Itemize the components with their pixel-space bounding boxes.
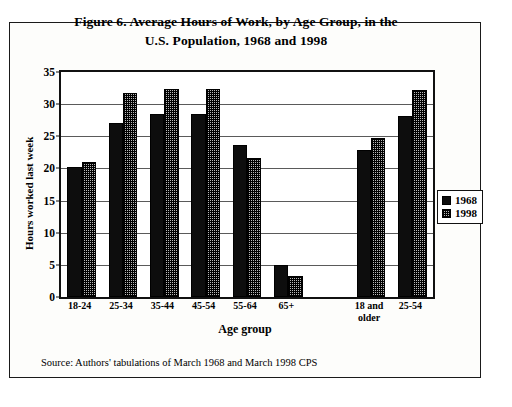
y-tick-label: 15	[44, 195, 56, 207]
bar-1998-18-24	[82, 162, 96, 297]
y-tick-mark	[56, 232, 61, 233]
y-tick-label: 25	[44, 130, 56, 142]
y-tick-mark	[56, 72, 61, 73]
gridline	[61, 104, 433, 105]
legend-item-1998: 1998	[442, 207, 477, 220]
bar-1968-25-54	[398, 116, 412, 297]
bar-1998-65+	[288, 276, 302, 297]
bar-1968-18-24	[67, 167, 81, 297]
bar-1998-25-54	[412, 90, 426, 297]
x-tick-label: 45-54	[192, 300, 215, 312]
x-tick-label: 25-54	[399, 300, 422, 312]
figure-title-line-2: U.S. Population, 1968 and 1998	[24, 31, 448, 50]
plot-area: 05101520253035	[59, 70, 435, 299]
y-tick-label: 35	[44, 66, 56, 78]
legend-label-1998: 1998	[455, 207, 477, 220]
y-tick-label: 30	[44, 98, 56, 110]
y-axis-title: Hours worked last week	[21, 118, 37, 268]
x-tick-label: 18 and older	[355, 300, 384, 323]
bar-1998-45-54	[206, 89, 220, 297]
bar-1998-25-34	[123, 93, 137, 297]
y-tick-mark	[56, 136, 61, 137]
chart-legend: 1968 1998	[437, 190, 483, 224]
bar-1968-18-and-older	[357, 150, 371, 297]
x-axis-title: Age group	[59, 322, 431, 337]
bar-1998-18-and-older	[371, 138, 385, 297]
legend-swatch-1998-icon	[442, 209, 451, 218]
bar-1968-35-44	[150, 114, 164, 297]
y-tick-label: 10	[44, 227, 56, 239]
bar-1968-65+	[274, 265, 288, 297]
y-tick-mark	[56, 264, 61, 265]
y-tick-mark	[56, 200, 61, 201]
x-tick-label: 55-64	[233, 300, 256, 312]
legend-swatch-1968-icon	[442, 196, 451, 205]
bar-1998-55-64	[247, 158, 261, 298]
x-tick-label: 35-44	[151, 300, 174, 312]
y-tick-mark	[56, 104, 61, 105]
bar-1998-35-44	[164, 89, 178, 297]
y-tick-label: 5	[49, 259, 55, 271]
y-tick-label: 0	[49, 291, 55, 303]
source-note: Source: Authors' tabulations of March 19…	[41, 357, 317, 368]
legend-item-1968: 1968	[442, 194, 477, 207]
x-tick-label: 18-24	[68, 300, 91, 312]
figure-title-line-1: Figure 6. Average Hours of Work, by Age …	[24, 12, 448, 31]
y-tick-mark	[56, 168, 61, 169]
bar-1968-45-54	[191, 114, 205, 297]
plot-inner	[61, 72, 433, 297]
figure-title: Figure 6. Average Hours of Work, by Age …	[24, 12, 448, 50]
x-tick-label: 25-34	[109, 300, 132, 312]
bar-1968-55-64	[233, 145, 247, 297]
y-tick-mark	[56, 297, 61, 298]
y-tick-label: 20	[44, 162, 56, 174]
x-tick-label: 65+	[278, 300, 294, 312]
bar-1968-25-34	[109, 123, 123, 297]
legend-label-1968: 1968	[455, 194, 477, 207]
